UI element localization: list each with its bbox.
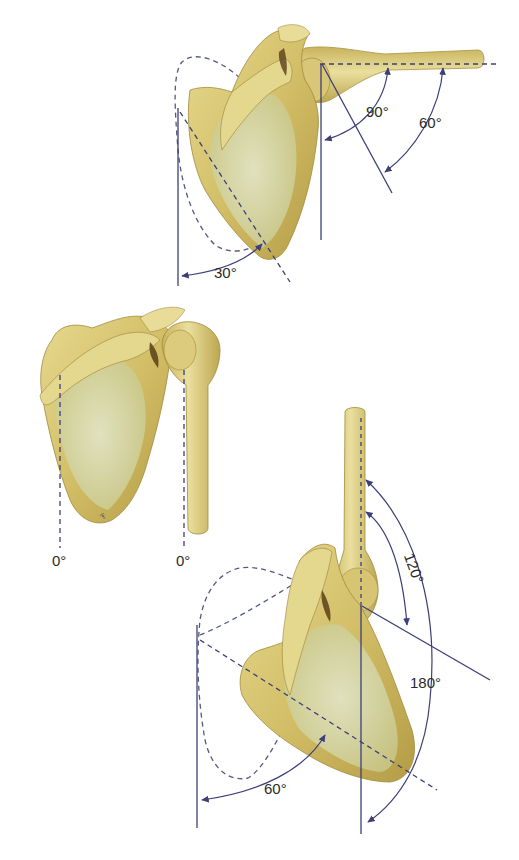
label-scapular-30: 30° — [214, 264, 237, 281]
scapula-rotated-30 — [188, 25, 318, 260]
label-glenohumeral-60: 60° — [419, 114, 442, 131]
humerus-rest — [162, 322, 220, 534]
panel-abduction-90: 90° 60° 30° — [175, 25, 497, 286]
label-total-180: 180° — [410, 674, 441, 691]
scapula-rotated-60 — [240, 544, 414, 782]
label-scapular-60: 60° — [264, 780, 287, 797]
label-scapula-0: 0° — [52, 552, 66, 569]
label-glenohumeral-120: 120° — [401, 551, 428, 586]
panel-rest: Ŧ 0° 0° — [40, 307, 220, 569]
panel-abduction-180: 120° 180° 60° — [197, 408, 490, 835]
scapulohumeral-rhythm-diagram: 90° 60° 30° Ŧ 0° 0° — [0, 0, 519, 860]
label-humerus-0: 0° — [176, 552, 190, 569]
humerus-abducted-90 — [294, 47, 484, 103]
label-total-90: 90° — [366, 103, 389, 120]
